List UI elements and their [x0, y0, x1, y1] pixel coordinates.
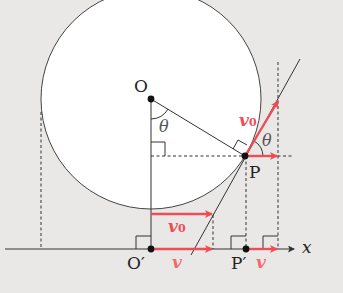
label-O: O	[134, 78, 148, 95]
label-P: P	[249, 164, 260, 181]
label-v0-at-P: v0	[239, 112, 257, 129]
diagram-canvas	[0, 0, 343, 293]
right-angle-right	[263, 236, 278, 249]
label-theta-O: θ	[159, 119, 169, 135]
label-x-axis: x	[302, 239, 312, 256]
point-O	[148, 96, 155, 103]
label-v0-bottom: v0	[168, 218, 186, 235]
label-v-at-Oprime: v	[172, 254, 182, 271]
label-Pprime: P′	[231, 255, 246, 272]
point-Pprime	[243, 246, 250, 253]
diagram: O θ P θ O′ P′ x v0 v0 v v	[0, 0, 343, 293]
label-Oprime: O′	[127, 255, 145, 272]
point-Oprime	[148, 246, 155, 253]
label-theta-P: θ	[262, 133, 272, 149]
label-v-at-Pprime: v	[256, 254, 266, 271]
point-P	[242, 153, 249, 160]
